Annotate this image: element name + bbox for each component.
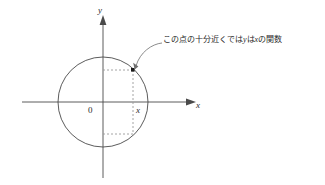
highlighted-point-marker — [131, 68, 135, 72]
diagram-canvas — [0, 0, 325, 185]
annotation-segment-3: の関数 — [258, 35, 282, 44]
point-x-coordinate-label: x — [136, 106, 140, 115]
x-axis-arrowhead — [186, 99, 196, 106]
x-axis — [22, 99, 196, 106]
annotation-leader-line — [136, 43, 162, 66]
annotation-text: この点の十分近くではyはxの関数 — [163, 35, 282, 45]
origin-label: 0 — [88, 106, 93, 115]
y-axis-label: y — [98, 6, 102, 15]
annotation-segment-2: は — [247, 35, 255, 44]
annotation-segment-1: この点の十分近くでは — [163, 35, 243, 44]
x-axis-label: x — [196, 101, 200, 110]
y-axis-arrowhead — [100, 15, 107, 25]
y-axis — [100, 15, 107, 178]
math-diagram-figure: y x 0 x この点の十分近くではyはxの関数 — [0, 0, 325, 185]
